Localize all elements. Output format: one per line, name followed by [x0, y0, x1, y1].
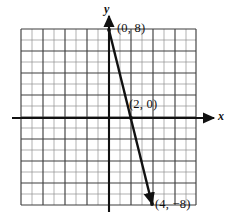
point-label-2-0: (2, 0)	[129, 98, 157, 111]
point-2-0	[129, 116, 133, 120]
point-label-0-8: (0, 8)	[117, 22, 145, 35]
y-axis-label: y	[104, 3, 109, 15]
x-axis-label: x	[218, 110, 224, 122]
point-4-m8	[150, 202, 154, 206]
point-0-8	[107, 28, 111, 32]
coordinate-graph	[0, 0, 231, 218]
point-label-4-minus-8: (4, −8)	[155, 198, 191, 211]
